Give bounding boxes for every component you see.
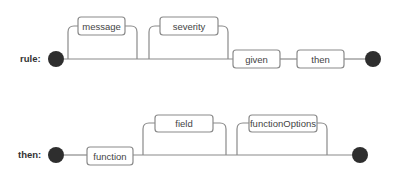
then-diagram: then: function field functionOptions [18, 115, 368, 165]
given-terminal[interactable]: given [233, 50, 280, 68]
functionoptions-branch-left [237, 123, 249, 155]
severity-branch-right [218, 26, 228, 59]
field-branch-left [143, 123, 155, 155]
message-branch-left [68, 26, 78, 59]
message-terminal[interactable]: message [78, 17, 125, 35]
rule-diagram: rule: message severity given then [20, 17, 381, 68]
then-terminal[interactable]: then [297, 50, 344, 68]
rule-end-node [365, 51, 381, 67]
railroad-diagram-canvas: rule: message severity given then [0, 0, 398, 172]
function-label: function [93, 151, 126, 162]
then-start-node [48, 147, 64, 163]
message-label: message [82, 21, 121, 32]
message-branch-right [125, 26, 137, 59]
field-terminal[interactable]: field [155, 115, 213, 132]
rule-label: rule: [20, 53, 41, 64]
severity-terminal[interactable]: severity [160, 17, 218, 35]
functionoptions-branch-right [317, 123, 327, 155]
then-end-node [352, 147, 368, 163]
functionoptions-label: functionOptions [250, 118, 316, 129]
rule-start-node [48, 51, 64, 67]
functionoptions-terminal[interactable]: functionOptions [249, 115, 317, 132]
given-label: given [245, 54, 268, 65]
field-branch-right [213, 123, 226, 155]
severity-branch-left [149, 26, 160, 59]
field-label: field [175, 118, 192, 129]
severity-label: severity [173, 21, 206, 32]
then-rule-label: then: [18, 149, 41, 160]
function-terminal[interactable]: function [87, 147, 133, 165]
then-label: then [311, 54, 330, 65]
